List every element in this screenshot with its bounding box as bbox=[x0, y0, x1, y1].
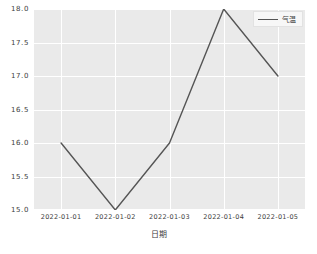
x-tick-label: 2022-01-04 bbox=[203, 213, 244, 221]
x-axis-label: 日期 bbox=[0, 228, 317, 239]
y-tick-label: 15.5 bbox=[11, 173, 29, 181]
y-tick-label: 17.0 bbox=[11, 72, 29, 80]
y-tick-label: 18.0 bbox=[11, 5, 29, 13]
y-tick-label: 17.5 bbox=[11, 39, 29, 47]
data-series-layer bbox=[34, 9, 305, 210]
y-tick-label: 16.5 bbox=[11, 106, 29, 114]
x-tick-label: 2022-01-03 bbox=[149, 213, 190, 221]
chart-legend[interactable]: 气温 bbox=[253, 11, 303, 27]
legend-label-temperature: 气温 bbox=[282, 14, 296, 24]
legend-line-swatch bbox=[258, 19, 278, 20]
x-tick-label: 2022-01-02 bbox=[95, 213, 136, 221]
line-chart-figure: 15.015.516.016.517.017.518.0 2022-01-012… bbox=[0, 0, 317, 254]
series-line-temperature bbox=[61, 9, 278, 210]
plot-area bbox=[34, 9, 305, 210]
y-tick-label: 15.0 bbox=[11, 206, 29, 214]
x-tick-label: 2022-01-05 bbox=[258, 213, 299, 221]
y-tick-label: 16.0 bbox=[11, 139, 29, 147]
x-tick-label: 2022-01-01 bbox=[41, 213, 82, 221]
